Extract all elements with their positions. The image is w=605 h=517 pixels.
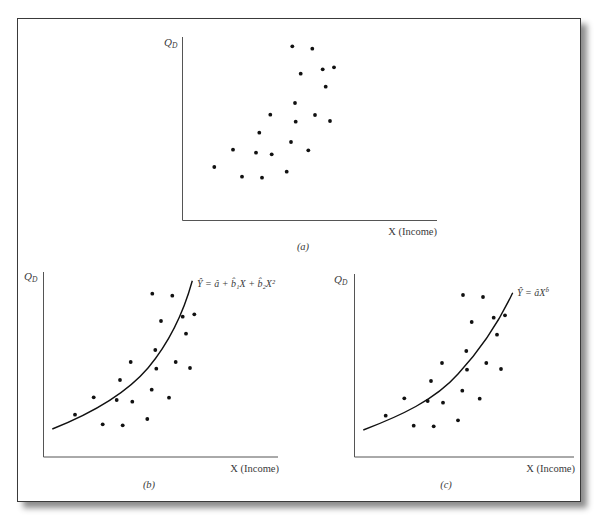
panel-caption: (b)	[143, 479, 156, 491]
figure-canvas: QD X (Income) (a)	[0, 0, 605, 517]
fit-equation-label: Ŷ = âXb̂	[517, 286, 549, 298]
data-points	[73, 292, 196, 427]
y-axis-label: QD	[24, 270, 38, 284]
data-points	[384, 293, 507, 428]
panel-a: QD X (Income) (a)	[164, 36, 438, 253]
quadratic-fit-curve	[52, 281, 192, 429]
data-points	[212, 44, 335, 179]
panel-b: QD X (Income) (b) Ŷ = â + b̂₁X + b̂₂X²	[24, 270, 280, 491]
y-axis-label: QD	[334, 273, 348, 287]
y-axis-label: QD	[164, 36, 178, 50]
panel-caption: (a)	[297, 241, 310, 253]
x-axis-label: X (Income)	[388, 226, 437, 238]
x-axis-label: X (Income)	[230, 463, 279, 475]
fit-equation-label: Ŷ = â + b̂₁X + b̂₂X²	[197, 277, 276, 289]
panel-caption: (c)	[440, 479, 452, 491]
x-axis-label: X (Income)	[526, 463, 575, 475]
panel-c: QD X (Income) (c) Ŷ = âXb̂	[334, 273, 576, 491]
power-fit-curve	[363, 293, 512, 430]
